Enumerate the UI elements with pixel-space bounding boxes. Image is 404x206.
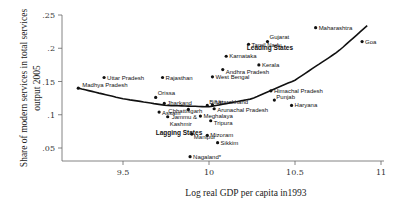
point-label: Orissa [158, 90, 176, 96]
data-point: Karnataka [225, 53, 258, 59]
point-label: Himachal Pradesh [274, 88, 323, 94]
point-marker [161, 76, 164, 79]
point-marker [206, 134, 209, 137]
point-marker [225, 55, 228, 58]
point-marker [158, 110, 161, 113]
point-marker [290, 104, 293, 107]
point-label: Jharkand [167, 100, 192, 106]
data-point: Nagaland* [188, 154, 221, 160]
point-label: Punjab [276, 94, 295, 100]
point-label: Jammu & [172, 114, 197, 120]
point-marker [266, 40, 269, 43]
y-tick-label: .25 [42, 11, 55, 20]
point-marker [102, 76, 105, 79]
x-ticks: 9.51010.511 [117, 161, 386, 177]
data-point: Jharkand [163, 100, 192, 106]
data-point: Orissa [154, 90, 176, 99]
data-point: Kerala [257, 62, 280, 68]
point-label: Uttar Pradesh [107, 75, 144, 81]
point-label: Gujarat [269, 34, 289, 40]
data-point: Mizoram [206, 132, 234, 138]
point-marker [163, 102, 166, 105]
y-axis-title-line2: output 2005 [32, 65, 42, 111]
point-label: Tripura [214, 120, 233, 126]
fit-curve [78, 26, 367, 107]
x-tick-label: 10 [204, 168, 214, 177]
data-point: Arunachal Pradesh [213, 107, 269, 113]
point-marker [216, 141, 219, 144]
data-point: Haryana [290, 102, 318, 108]
point-label: Madhya Pradesh [82, 82, 127, 88]
x-tick-label: 10.5 [286, 168, 304, 177]
leading-states-label: Leading States [247, 44, 294, 52]
y-tick-label: .1 [47, 111, 55, 120]
data-point: West Bengal [211, 74, 250, 80]
point-label: Sikkim [221, 140, 239, 146]
point-label: Arunachal Pradesh [217, 107, 268, 113]
data-point: Rajasthan [161, 75, 193, 81]
point-marker [211, 103, 214, 106]
point-label: Maharashtra [319, 25, 353, 31]
point-marker [269, 89, 272, 92]
point-marker [77, 87, 80, 90]
data-point: Madhya Pradesh [77, 82, 128, 90]
point-label: Kerala [262, 62, 280, 68]
point-marker [188, 155, 191, 158]
data-point: Sikkim [216, 140, 238, 146]
data-point: Himachal Pradesh [269, 88, 323, 94]
point-marker [257, 63, 260, 66]
data-point: Uttar Pradesh [102, 75, 144, 81]
point-label: Andhra Pradesh [226, 69, 269, 75]
point-marker [211, 75, 214, 78]
x-tick-label: 9.5 [117, 168, 130, 177]
y-tick-label: .15 [42, 78, 55, 87]
data-points: Madhya PradeshUttar PradeshRajasthanWest… [77, 25, 377, 160]
y-tick-label: .2 [47, 44, 55, 53]
data-point: Goa [360, 39, 377, 45]
y-ticks: .05.1.15.2.25 [42, 11, 62, 153]
data-point: Meghalaya [199, 113, 234, 119]
point-label: Mizoram [210, 132, 233, 138]
point-marker [221, 68, 224, 71]
point-label: Nagaland* [193, 154, 222, 160]
data-point: Punjab [273, 94, 296, 102]
data-point: Andhra Pradesh [221, 68, 269, 75]
point-label: Kashmir [170, 121, 192, 127]
point-label: Meghalaya [203, 113, 233, 119]
lagging-states-label: Lagging States [156, 129, 203, 137]
point-marker [199, 114, 202, 117]
point-label: Karnataka [229, 53, 257, 59]
point-label: Uttarakhand [215, 99, 248, 105]
point-label: Rajasthan [166, 75, 193, 81]
y-tick-label: .05 [42, 144, 55, 153]
point-label: Goa [365, 39, 377, 45]
point-label: West Bengal [215, 74, 249, 80]
data-point: Maharashtra [314, 25, 353, 31]
x-tick-label: 11 [376, 168, 386, 177]
point-marker [209, 119, 212, 122]
data-point: Jammu &Kashmir [166, 114, 197, 127]
scatter-chart: .05.1.15.2.25 9.51010.511 Madhya Pradesh… [0, 0, 404, 206]
y-axis-title-line1: Share of modern services in total servic… [19, 9, 29, 168]
point-marker [213, 107, 216, 110]
point-marker [360, 40, 363, 43]
point-marker [314, 26, 317, 29]
point-label: Haryana [295, 102, 318, 108]
point-marker [166, 115, 169, 118]
x-axis-title: Log real GDP per capita in1993 [185, 188, 307, 198]
data-point: Tripura [209, 119, 233, 126]
